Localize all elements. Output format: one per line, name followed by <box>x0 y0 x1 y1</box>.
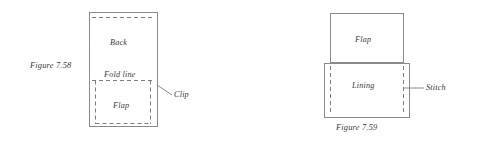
fold-line-label: Fold line <box>104 70 136 79</box>
lining-label: Lining <box>352 81 375 90</box>
flap-label-758: Flap <box>113 101 129 110</box>
clip-label: Clip <box>174 90 189 99</box>
flap-label-759: Flap <box>355 35 371 44</box>
figure-759-caption: Figure 7.59 <box>336 123 377 132</box>
figure-758-caption: Figure 7.58 <box>30 61 71 70</box>
lining-panel-outline <box>325 64 410 118</box>
back-label: Back <box>110 38 127 47</box>
clip-leader-line <box>157 85 172 95</box>
figure-759-graphics <box>325 14 425 118</box>
stitch-label: Stitch <box>426 83 446 92</box>
diagram-stage: Figure 7.58 Back Fold line Flap Clip Fla… <box>0 0 485 145</box>
figures-svg <box>0 0 485 145</box>
